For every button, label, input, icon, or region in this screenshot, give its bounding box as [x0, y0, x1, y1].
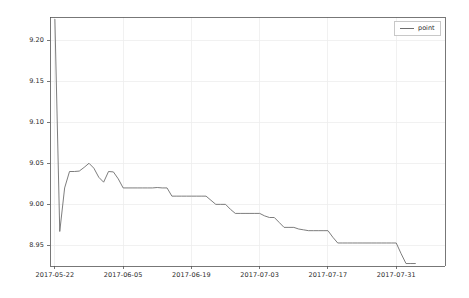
data-series-lines: [55, 19, 416, 263]
grid-lines: [50, 17, 445, 266]
x-axis-tick-label: 2017-06-19: [162, 271, 220, 279]
legend-line-swatch: [400, 28, 414, 29]
x-axis-tick-label: 2017-05-22: [26, 271, 84, 279]
y-axis-tick-label: 8.95: [0, 241, 44, 249]
axes-frame: [50, 17, 445, 266]
chart-figure: 8.959.009.059.109.159.20 2017-05-222017-…: [0, 0, 469, 298]
y-axis-tick-label: 9.10: [0, 118, 44, 126]
axis-tick-marks: [47, 40, 396, 269]
y-axis-tick-label: 9.15: [0, 77, 44, 85]
chart-plot-svg: [0, 0, 469, 298]
x-axis-tick-label: 2017-07-17: [299, 271, 357, 279]
x-axis-tick-label: 2017-07-31: [367, 271, 425, 279]
y-axis-tick-label: 9.20: [0, 36, 44, 44]
data-line-point: [55, 19, 416, 263]
chart-legend: point: [394, 21, 441, 36]
y-axis-tick-label: 9.00: [0, 200, 44, 208]
x-axis-tick-label: 2017-07-03: [231, 271, 289, 279]
legend-entry-point: point: [395, 22, 440, 35]
y-axis-tick-label: 9.05: [0, 159, 44, 167]
x-axis-tick-label: 2017-06-05: [94, 271, 152, 279]
legend-label: point: [418, 25, 435, 32]
